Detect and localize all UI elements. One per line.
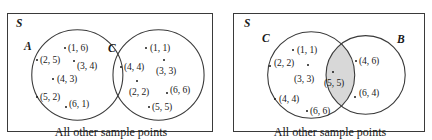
set-label-C-left: C	[108, 43, 116, 55]
sample-point-label: (2, 2)	[129, 87, 149, 97]
sample-point-label: (4, 3)	[57, 74, 77, 84]
sample-point-label: (1, 1)	[150, 43, 170, 53]
sample-point-label: (4, 4)	[279, 94, 299, 104]
sample-point-label: (1, 6)	[68, 43, 88, 53]
sample-point-label: (1, 1)	[297, 45, 317, 55]
figure-canvas: S A C (1, 6) (2, 5) (3, 4) (4, 3) (5, 2)…	[0, 0, 432, 140]
sample-point-label: (6, 4)	[359, 88, 379, 98]
universe-label-S-left: S	[16, 18, 22, 30]
venn-panel-left: S A C (1, 6) (2, 5) (3, 4) (4, 3) (5, 2)…	[7, 13, 213, 132]
sample-point-label: (3, 4)	[77, 61, 97, 71]
sample-point-label: (4, 6)	[359, 56, 379, 66]
sample-point-label: (4, 4)	[124, 62, 144, 72]
sample-point-label: (6, 1)	[69, 99, 89, 109]
sample-point-label: (5, 2)	[40, 92, 60, 102]
sample-point-label: (6, 6)	[310, 106, 330, 116]
sample-point-label: (5, 5)	[152, 102, 172, 112]
set-label-B: B	[397, 34, 405, 46]
set-label-C-right: C	[262, 33, 270, 45]
caption-left: All other sample points	[8, 126, 214, 138]
venn-left-circles	[8, 14, 212, 131]
sample-point-label: (3, 3)	[156, 66, 176, 76]
sample-point-label: (2, 2)	[274, 58, 294, 68]
venn-panel-right: S C B (1, 1) (2, 2) (3, 3) (4, 4) (6, 6)…	[233, 13, 425, 132]
sample-point-label: (2, 5)	[40, 55, 60, 65]
sample-point-label: (6, 6)	[170, 85, 190, 95]
intersection-point-label: (5, 5)	[324, 78, 344, 88]
universe-label-S-right: S	[244, 18, 250, 30]
caption-right: All other sample points	[234, 126, 426, 138]
sample-point-label: (3, 3)	[294, 74, 314, 84]
set-label-A: A	[24, 41, 32, 53]
